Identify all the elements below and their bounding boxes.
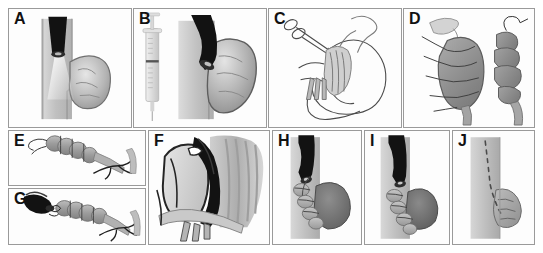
panel-d[interactable]: D [403,8,535,128]
panel-e-artwork [9,131,145,185]
figure-panel-grid: A [0,0,543,253]
panel-e[interactable]: E [8,130,146,186]
panel-label-a: A [14,11,26,27]
panel-i-artwork [365,131,449,244]
panel-label-c: C [274,11,286,27]
panel-g-artwork [9,189,145,244]
panel-label-d: D [409,11,421,27]
panel-f[interactable]: F [148,130,270,245]
panel-label-b: B [139,11,151,27]
panel-b-artwork [134,9,266,127]
panel-c[interactable]: C [268,8,402,128]
panel-a[interactable]: A [8,8,132,128]
panel-b[interactable]: B [133,8,267,128]
panel-label-e: E [14,133,25,149]
panel-j[interactable]: J [452,130,535,245]
panel-label-j: J [458,133,467,149]
panel-d-artwork [404,9,534,127]
panel-label-f: F [154,133,164,149]
syringe-glyph [143,13,162,121]
panel-c-artwork [269,9,401,127]
panel-a-artwork [9,9,131,127]
panel-g[interactable]: G [8,188,146,245]
panel-f-artwork [149,131,269,244]
panel-label-i: I [370,133,374,149]
panel-label-g: G [14,191,26,207]
panel-h[interactable]: H [272,130,362,245]
panel-i[interactable]: I [364,130,450,245]
panel-label-h: H [278,133,290,149]
